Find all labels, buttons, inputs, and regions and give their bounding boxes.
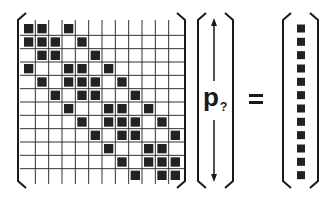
- matrix-cell-filled: [104, 104, 113, 113]
- matrix-cell-filled: [24, 37, 33, 46]
- matrix-cell-filled: [171, 157, 180, 166]
- result-vector-cell: [297, 51, 305, 59]
- matrix-cell-filled: [77, 91, 86, 100]
- matrix-cell-filled: [104, 144, 113, 153]
- result-vector-cell: [297, 78, 305, 86]
- result-vector-cell: [297, 145, 305, 153]
- matrix-cell-filled: [157, 171, 166, 180]
- matrix-cell-filled: [37, 51, 46, 60]
- matrix-cell-filled: [64, 24, 73, 33]
- matrix-cell-filled: [24, 64, 33, 73]
- matrix-cell-filled: [91, 131, 100, 140]
- matrix-cell-filled: [157, 117, 166, 126]
- matrix-cell-filled: [77, 77, 86, 86]
- matrix-cell-filled: [117, 117, 126, 126]
- result-vector-right-bracket: [310, 13, 318, 188]
- result-vector-cells: [297, 25, 305, 180]
- matrix-cell-filled: [77, 64, 86, 73]
- matrix-cell-filled: [117, 157, 126, 166]
- matrix-cell-filled: [37, 77, 46, 86]
- result-vector-cell: [297, 171, 305, 179]
- matrix-cell-filled: [37, 37, 46, 46]
- matrix-cell-filled: [117, 104, 126, 113]
- matrix-cell-filled: [64, 77, 73, 86]
- arrow-down-icon: [211, 120, 217, 182]
- arrow-up-icon: [211, 18, 217, 81]
- matrix-cell-filled: [64, 64, 73, 73]
- diagram-canvas: [0, 0, 334, 199]
- result-vector-cell: [297, 38, 305, 46]
- result-vector-cell: [297, 25, 305, 33]
- matrix-cell-filled: [131, 117, 140, 126]
- matrix-cell-filled: [131, 91, 140, 100]
- result-vector-cell: [297, 131, 305, 139]
- equals-sign: [249, 94, 263, 104]
- matrix-cell-filled: [117, 77, 126, 86]
- matrix-cell-filled: [104, 117, 113, 126]
- matrix-cell-filled: [157, 144, 166, 153]
- matrix-cell-filled: [144, 144, 153, 153]
- matrix-cell-filled: [117, 131, 126, 140]
- matrix-cell-filled: [131, 171, 140, 180]
- matrix-cell-filled: [91, 91, 100, 100]
- result-vector-cell: [297, 91, 305, 99]
- result-vector-cell: [297, 118, 305, 126]
- matrix-cell-filled: [64, 104, 73, 113]
- unknown-vector-subscript: ?: [220, 101, 227, 113]
- matrix-cell-filled: [104, 64, 113, 73]
- matrix-cell-filled: [51, 51, 60, 60]
- matrix-cell-filled: [171, 171, 180, 180]
- matrix-cell-filled: [51, 37, 60, 46]
- matrix-cell-filled: [157, 157, 166, 166]
- matrix-cell-filled: [144, 157, 153, 166]
- unknown-vector-symbol: p: [203, 84, 219, 110]
- matrix-cell-filled: [77, 117, 86, 126]
- result-vector-cell: [297, 105, 305, 113]
- matrix-cell-filled: [171, 131, 180, 140]
- matrix-cell-filled: [24, 24, 33, 33]
- matrix-cell-filled: [131, 131, 140, 140]
- result-vector-cell: [297, 65, 305, 73]
- matrix-cell-filled: [91, 51, 100, 60]
- result-vector-cell: [297, 158, 305, 166]
- matrix-cell-filled: [77, 37, 86, 46]
- matrix-cell-filled: [37, 24, 46, 33]
- matrix-cell-filled: [91, 77, 100, 86]
- matrix-cell-filled: [51, 91, 60, 100]
- matrix-cell-filled: [144, 104, 153, 113]
- result-vector-left-bracket: [283, 13, 291, 188]
